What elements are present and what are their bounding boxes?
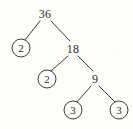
edge-36-to-18: [51, 21, 70, 41]
node-label-3-a: 3: [70, 104, 76, 116]
edge-18-to-9: [78, 56, 93, 71]
edge-36-to-2: [25, 21, 40, 40]
edge-18-to-2: [51, 56, 68, 71]
node-label-3-b: 3: [116, 104, 122, 116]
node-label-2-a: 2: [18, 42, 24, 54]
node-label-18: 18: [67, 43, 79, 55]
tree-edges: [25, 21, 115, 102]
node-label-36: 36: [39, 8, 51, 20]
edge-9-to-3-right: [99, 86, 115, 102]
node-label-2-b: 2: [44, 73, 50, 85]
factor-tree-figure: 36 2 18 2 9 3 3: [0, 0, 133, 129]
node-label-9: 9: [92, 73, 98, 85]
edge-9-to-3-left: [77, 86, 91, 102]
factor-tree-svg: [0, 0, 133, 129]
